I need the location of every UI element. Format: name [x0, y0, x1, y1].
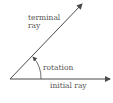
- terminal-ray-label: terminal ray: [28, 14, 60, 30]
- initial-ray-label: initial ray: [50, 82, 87, 90]
- rotation-arc: [33, 57, 41, 79]
- terminal-label-line2: ray: [28, 22, 60, 30]
- rotation-label: rotation: [43, 64, 73, 72]
